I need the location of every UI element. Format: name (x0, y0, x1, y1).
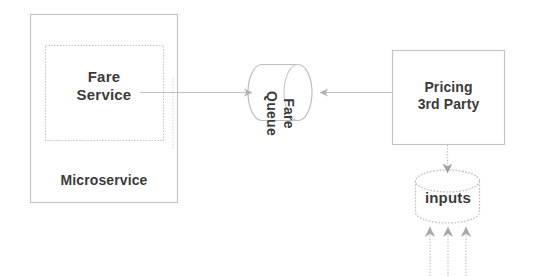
inputs-label: inputs (408, 189, 488, 207)
diagram-canvas: Fare Service Microservice Fare Queue Pri… (0, 0, 533, 276)
fare-service-label: Fare Service (45, 68, 163, 103)
microservice-label: Microservice (30, 172, 178, 189)
fare-queue-label: Fare Queue (263, 58, 296, 170)
pricing-third-party-label: Pricing 3rd Party (392, 79, 505, 112)
